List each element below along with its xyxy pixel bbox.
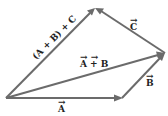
arrowhead-a (114, 95, 123, 102)
arrow-over-c: → (130, 15, 138, 25)
arrow-over-a-plus-b: → → (80, 52, 99, 62)
arrow-over-a: → (58, 97, 66, 107)
label-a-plus-b-plus-c: (A + B) + C (30, 13, 78, 61)
vector-diagram: A → B → A + B → → C → (A + B) + C (0, 0, 168, 116)
arrow-over-b: → (146, 71, 154, 81)
